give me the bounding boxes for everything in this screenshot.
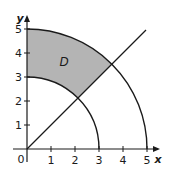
origin-label: 0: [18, 153, 25, 166]
region-label-d: D: [59, 55, 68, 69]
y-tick-label-2: 2: [15, 95, 22, 108]
y-tick-label-1: 1: [15, 119, 22, 132]
y-tick-label-4: 4: [15, 47, 22, 60]
y-axis-arrow-icon: [24, 15, 30, 22]
x-tick-label-3: 3: [96, 154, 103, 167]
x-tick-label-4: 4: [120, 154, 127, 167]
x-axis-label: x: [153, 153, 162, 166]
x-axis-arrow-icon: [153, 146, 160, 152]
y-axis-label: y: [16, 12, 24, 25]
x-tick-label-1: 1: [48, 154, 55, 167]
x-tick-label-5: 5: [144, 154, 151, 167]
x-tick-label-2: 2: [72, 154, 79, 167]
y-tick-label-3: 3: [15, 71, 22, 84]
region-d-fill: [27, 29, 112, 98]
polar-region-diagram: 1 2 3 4 5 1 2 3 4 5 0 x y D: [0, 0, 169, 176]
